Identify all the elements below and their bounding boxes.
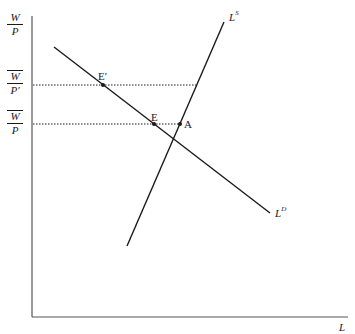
wage-label-equilibrium: W P — [7, 110, 23, 136]
y-label-num: W — [7, 12, 23, 25]
wage-high-num: W — [7, 70, 23, 84]
labor-supply-curve — [127, 22, 224, 246]
point-E-prime — [101, 83, 105, 87]
labor-demand-curve — [54, 47, 270, 213]
demand-label-sup: D — [281, 205, 286, 213]
wage-high-den: P′ — [7, 84, 23, 96]
wage-eq-num: W — [7, 110, 23, 124]
demand-curve-label: LD — [275, 208, 286, 219]
label-E-prime: E′ — [98, 71, 107, 82]
x-axis-label: L — [339, 322, 345, 333]
supply-label-sup: S — [235, 9, 239, 17]
supply-curve-label: LS — [229, 12, 239, 23]
label-E: E — [151, 112, 158, 123]
x-label-text: L — [339, 321, 345, 333]
y-axis-label: W P — [7, 12, 23, 37]
label-A: A — [184, 119, 192, 130]
wage-eq-den: P — [7, 124, 23, 136]
diagram-canvas — [0, 0, 355, 334]
wage-label-high: W P′ — [7, 70, 23, 96]
point-A — [178, 122, 182, 126]
y-label-den: P — [7, 25, 23, 37]
